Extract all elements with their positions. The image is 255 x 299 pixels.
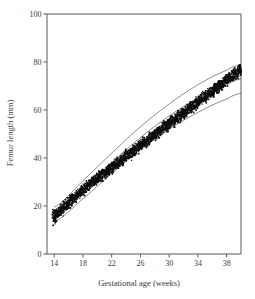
y-tick-label: 20 xyxy=(34,202,42,211)
femur-length-scatter-chart: 14182226303438 020406080100 Gestational … xyxy=(0,0,255,299)
x-tick-label: 14 xyxy=(50,259,58,268)
y-tick-label: 80 xyxy=(34,58,42,67)
x-tick-label: 38 xyxy=(223,259,231,268)
x-tick-label: 30 xyxy=(165,259,173,268)
y-tick-label: 40 xyxy=(34,154,42,163)
y-tick-label: 0 xyxy=(38,250,42,259)
x-tick-label: 34 xyxy=(194,259,202,268)
y-tick-label: 60 xyxy=(34,106,42,115)
x-tick-label: 22 xyxy=(108,259,116,268)
x-axis-title: Gestational age (weeks) xyxy=(98,278,180,288)
y-tick-label: 100 xyxy=(30,10,42,19)
y-axis-title: Femur length (mm) xyxy=(5,100,15,167)
x-tick-label: 26 xyxy=(136,259,144,268)
x-tick-label: 18 xyxy=(79,259,87,268)
